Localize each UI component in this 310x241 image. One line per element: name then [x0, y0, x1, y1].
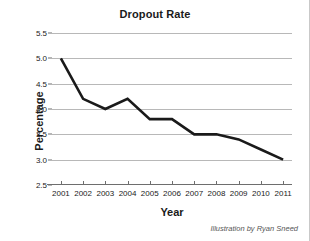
x-axis-tick-label: 2002 [74, 189, 92, 198]
x-axis-tick-label: 2004 [119, 189, 137, 198]
x-axis-tick-label: 2008 [208, 189, 226, 198]
y-axis-label: Percentage [33, 91, 45, 150]
dropout-rate-line-series [52, 33, 292, 185]
x-axis-tick-label: 2010 [252, 189, 270, 198]
y-axis-tick-label: 3.0 [36, 155, 47, 164]
y-axis-tick-label: 2.5 [36, 181, 47, 190]
y-axis-tick-label: 5.0 [36, 54, 47, 63]
chart-figure: Dropout Rate Percentage 2.53.03.54.04.55… [0, 0, 310, 241]
y-axis-tick-label: 5.5 [36, 29, 47, 38]
y-axis-tick-label: 4.0 [36, 105, 47, 114]
y-axis-tick-label: 3.5 [36, 130, 47, 139]
x-axis-tick-label: 2009 [230, 189, 248, 198]
gridline [52, 185, 292, 186]
x-axis-tick-label: 2001 [52, 189, 70, 198]
x-axis-tick-label: 2003 [96, 189, 114, 198]
page-border-rule [309, 0, 310, 241]
x-axis-tick-label: 2007 [185, 189, 203, 198]
chart-title: Dropout Rate [0, 8, 310, 20]
plot-area: 2.53.03.54.04.55.05.5 200120022003200420… [52, 33, 292, 185]
x-axis-tick-label: 2006 [163, 189, 181, 198]
x-axis-label: Year [46, 206, 298, 218]
y-axis-tick-label: 4.5 [36, 79, 47, 88]
x-axis-tick-label: 2011 [275, 189, 292, 198]
x-axis-tick-label: 2005 [141, 189, 159, 198]
illustration-credit: Illustration by Ryan Sneed [210, 224, 298, 233]
